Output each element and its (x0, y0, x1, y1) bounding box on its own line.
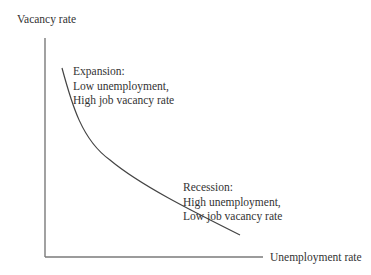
expansion-heading: Expansion: (73, 64, 174, 79)
recession-line-1: High unemployment, (183, 195, 282, 210)
expansion-line-2: High job vacancy rate (73, 93, 174, 108)
x-axis-label: Unemployment rate (270, 250, 362, 264)
diagram-canvas (0, 0, 371, 275)
beveridge-curve-diagram: Vacancy rate Unemployment rate Expansion… (0, 0, 371, 275)
y-axis-label: Vacancy rate (17, 12, 76, 26)
expansion-annotation: Expansion: Low unemployment, High job va… (73, 64, 174, 108)
recession-heading: Recession: (183, 180, 282, 195)
recession-annotation: Recession: High unemployment, Low job va… (183, 180, 282, 224)
expansion-line-1: Low unemployment, (73, 79, 174, 94)
recession-line-2: Low job vacancy rate (183, 209, 282, 224)
